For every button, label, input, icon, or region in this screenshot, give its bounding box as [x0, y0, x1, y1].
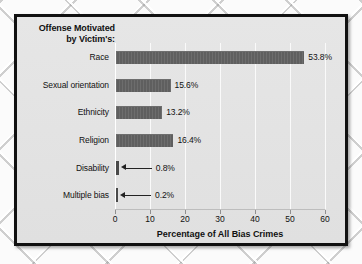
leader-arrowhead-icon [121, 164, 126, 170]
bar-row: Ethnicity13.2% [115, 105, 325, 119]
axis-baseline [115, 43, 116, 209]
chart-frame: Offense Motivated by Victim's: Race53.8%… [14, 14, 348, 246]
bar [116, 79, 171, 92]
bar [116, 51, 304, 64]
bar-row: Sexual orientation15.6% [115, 78, 325, 92]
value-label: 0.8% [156, 161, 175, 175]
gridline [255, 43, 256, 209]
x-axis-title: Percentage of All Bias Crimes [115, 229, 325, 239]
gridline [325, 43, 326, 209]
category-label: Religion [79, 133, 109, 147]
bar-row: Religion16.4% [115, 133, 325, 147]
category-label: Race [90, 50, 109, 64]
chart-title: Offense Motivated by Victim's: [25, 23, 115, 45]
category-label: Sexual orientation [43, 78, 109, 92]
bar [116, 134, 173, 147]
plot-area: Race53.8%Sexual orientation15.6%Ethnicit… [115, 43, 325, 209]
bar [116, 106, 162, 119]
chart-plot-panel: Offense Motivated by Victim's: Race53.8%… [17, 17, 345, 243]
bar-row: Multiple bias0.2% [115, 188, 325, 202]
category-label: Disability [76, 161, 109, 175]
gridline [290, 43, 291, 209]
category-label: Multiple bias [63, 188, 109, 202]
value-label: 53.8% [308, 50, 332, 64]
leader-line [125, 195, 151, 196]
chart-title-line-1: Offense Motivated [25, 23, 115, 34]
bar-row: Disability0.8% [115, 161, 325, 175]
x-tick-label: 60 [320, 214, 329, 225]
x-tick-label: 30 [215, 214, 224, 225]
value-label: 15.6% [175, 78, 199, 92]
x-tick-label: 10 [145, 214, 154, 225]
gridline [185, 43, 186, 209]
leader-arrowhead-icon [120, 192, 125, 198]
gridlines [115, 43, 325, 209]
x-tick-label: 50 [285, 214, 294, 225]
bar [116, 161, 119, 175]
x-tick-label: 40 [250, 214, 259, 225]
value-label: 13.2% [166, 105, 190, 119]
leader-line [126, 168, 152, 169]
chart-screenshot: Offense Motivated by Victim's: Race53.8%… [0, 0, 362, 264]
gridline [220, 43, 221, 209]
bar [116, 188, 118, 202]
chart-title-line-2: by Victim's: [25, 34, 115, 45]
value-label: 0.2% [155, 188, 174, 202]
x-tick-label: 20 [180, 214, 189, 225]
value-label: 16.4% [177, 133, 201, 147]
bar-row: Race53.8% [115, 50, 325, 64]
gridline [150, 43, 151, 209]
x-tick-label: 0 [113, 214, 118, 225]
category-label: Ethnicity [78, 105, 109, 119]
